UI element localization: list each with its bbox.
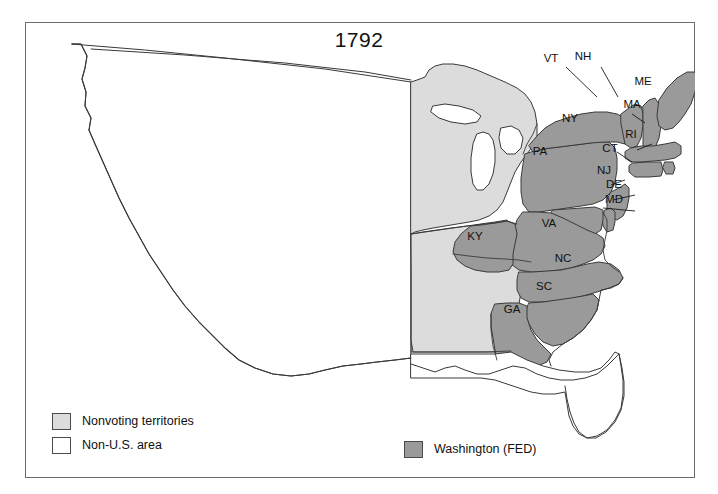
leader-NH [601, 67, 618, 97]
state-label-ME: ME [634, 75, 652, 87]
state-label-DE: DE [606, 178, 622, 190]
state-label-MD: MD [605, 193, 623, 205]
region-florida-gulf [411, 352, 623, 438]
region-western-lands [72, 44, 411, 376]
state-label-SC: SC [536, 280, 552, 292]
legend-label-nonvoting: Nonvoting territories [82, 415, 194, 428]
state-label-CT: CT [602, 142, 617, 154]
figure-root: 1792 [0, 0, 718, 494]
state-label-NY: NY [562, 112, 578, 124]
state-label-VA: VA [542, 217, 557, 229]
legend-swatch-nonvoting [52, 413, 71, 430]
lake-huron-erie [499, 126, 523, 154]
legend-swatch-washington [404, 441, 423, 458]
state-label-VT: VT [544, 52, 559, 64]
state-label-GA: GA [504, 303, 521, 315]
state-RI [663, 162, 675, 174]
state-ME [657, 72, 695, 130]
legend-item-non-us: Non-U.S. area [52, 434, 194, 456]
state-label-RI: RI [625, 128, 637, 140]
legend-label-non-us: Non-U.S. area [82, 439, 162, 452]
legend-item-washington: Washington (FED) [404, 438, 536, 460]
leader-VT [566, 67, 597, 97]
state-label-NH: NH [575, 50, 592, 62]
legend-item-nonvoting: Nonvoting territories [52, 410, 194, 432]
legend-label-washington: Washington (FED) [434, 443, 536, 456]
state-CT [629, 162, 663, 177]
state-label-NJ: NJ [597, 164, 611, 176]
legend-right: Washington (FED) [404, 438, 536, 462]
state-label-NC: NC [555, 252, 572, 264]
state-DE [602, 208, 615, 232]
state-label-PA: PA [533, 145, 548, 157]
legend-left: Nonvoting territories Non-U.S. area [52, 410, 194, 458]
state-VT [621, 104, 643, 148]
state-label-MA: MA [623, 98, 641, 110]
legend-swatch-non-us [52, 437, 71, 454]
state-label-KY: KY [467, 230, 483, 242]
